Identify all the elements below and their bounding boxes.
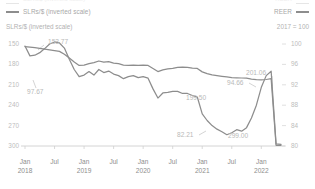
x-tick-label: Jul xyxy=(228,158,236,167)
plot-area: 150180210240270300 1009692888480 153.779… xyxy=(0,36,315,161)
data-point-label: 201.06 xyxy=(246,69,266,76)
data-point-label: 199.50 xyxy=(186,94,206,101)
data-point-label: 153.77 xyxy=(48,38,68,45)
chart-legend: SLRs/$ (inverted scale) REER xyxy=(0,7,315,21)
x-tick-month: Jan xyxy=(138,158,149,165)
x-tick-year: 2018 xyxy=(18,167,33,176)
right-tick-label: 84 xyxy=(291,122,308,129)
left-tick-label: 270 xyxy=(2,122,19,129)
x-tick-year: 2022 xyxy=(254,167,269,176)
x-tick-year: 2019 xyxy=(77,167,92,176)
left-tick-label: 210 xyxy=(2,81,19,88)
data-point-label: 299.00 xyxy=(228,132,248,139)
x-tick-label: Jan2021 xyxy=(195,158,210,175)
x-tick-month: Jul xyxy=(168,158,176,165)
x-tick-year: 2021 xyxy=(195,167,210,176)
left-tick-label: 150 xyxy=(2,40,19,47)
x-axis-labels: Jan2018JulJan2019JulJan2020JulJan2021Jul… xyxy=(0,158,315,186)
x-tick-label: Jul xyxy=(109,158,117,167)
right-tick-label: 96 xyxy=(291,60,308,67)
right-tick-label: 92 xyxy=(291,81,308,88)
ghost-left-label: SLRs/$ (inverted scale) xyxy=(23,0,85,2)
x-tick-month: Jan xyxy=(256,158,267,165)
x-tick-year: 2020 xyxy=(136,167,151,176)
x-tick-month: Jan xyxy=(79,158,90,165)
data-point-label: 97.67 xyxy=(27,88,44,95)
right-tick-label: 88 xyxy=(291,101,308,108)
legend-item-reer[interactable]: REER xyxy=(274,8,309,15)
x-tick-label: Jan2020 xyxy=(136,158,151,175)
legend-label-reer: REER xyxy=(274,8,292,15)
label-leader-line xyxy=(249,83,256,87)
x-tick-month: Jul xyxy=(50,158,58,165)
axis-captions: SLRs/$ (inverted scale) 2017 = 100 xyxy=(0,23,315,35)
right-tick-label: 100 xyxy=(291,40,308,47)
right-tick-label: 80 xyxy=(291,142,308,149)
cut-off-row: SLRs/$ (inverted scale) REER xyxy=(0,0,315,7)
chart-svg xyxy=(0,36,315,161)
x-tick-label: Jan2022 xyxy=(254,158,269,175)
left-axis-caption: SLRs/$ (inverted scale) xyxy=(6,23,72,30)
ghost-swatch-right-icon xyxy=(296,3,309,4)
series-layer xyxy=(25,42,281,145)
label-leader-line xyxy=(33,80,36,88)
left-tick-label: 300 xyxy=(2,142,19,149)
x-tick-label: Jan2018 xyxy=(18,158,33,175)
right-axis-caption: 2017 = 100 xyxy=(277,23,309,30)
ghost-swatch-icon xyxy=(6,3,19,4)
x-tick-month: Jul xyxy=(109,158,117,165)
x-tick-label: Jul xyxy=(50,158,58,167)
ghost-right-label: REER xyxy=(275,0,292,2)
data-point-label: 94.66 xyxy=(227,79,244,86)
x-tick-month: Jul xyxy=(228,158,236,165)
legend-label-slrs: SLRs/$ (inverted scale) xyxy=(23,8,91,15)
left-tick-label: 180 xyxy=(2,60,19,67)
line-swatch-icon xyxy=(6,11,19,13)
legend-item-slrs[interactable]: SLRs/$ (inverted scale) xyxy=(6,8,91,15)
chart-container: SLRs/$ (inverted scale) REER SLRs/$ (inv… xyxy=(0,0,315,189)
x-tick-label: Jan2019 xyxy=(77,158,92,175)
x-tick-label: Jul xyxy=(168,158,176,167)
left-tick-label: 240 xyxy=(2,101,19,108)
x-tick-month: Jan xyxy=(197,158,208,165)
data-point-label: 82.21 xyxy=(177,131,194,138)
label-leader-line xyxy=(199,131,206,135)
x-tick-month: Jan xyxy=(20,158,31,165)
line-swatch-icon xyxy=(296,11,309,13)
series-line-reer xyxy=(25,42,281,145)
